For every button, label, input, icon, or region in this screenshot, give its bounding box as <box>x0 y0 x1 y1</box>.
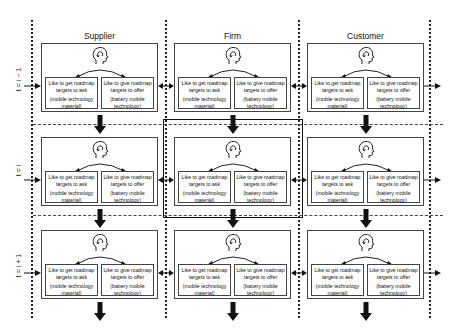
offer-line4: technology) <box>368 103 419 110</box>
ask-line2: targets to ask <box>312 87 363 94</box>
bidirectional-arrow-icon <box>158 82 174 90</box>
down-arrow-icon <box>360 115 372 135</box>
ask-targets-box: Like to get roadmap targets to ask (mobi… <box>311 171 364 203</box>
ask-targets-box: Like to get roadmap targets to ask (mobi… <box>311 77 364 109</box>
ask-line3: (mobile technology <box>179 283 230 290</box>
down-arrow-icon <box>360 302 372 322</box>
ask-line4: material) <box>46 103 97 110</box>
offer-line4: technology) <box>368 290 419 297</box>
ask-line2: targets to ask <box>312 181 363 188</box>
down-arrow-icon <box>94 115 106 135</box>
ask-line4: material) <box>46 197 97 204</box>
ask-targets-box: Like to get roadmap targets to ask (mobi… <box>178 171 231 203</box>
right-arrow-icon <box>24 269 42 277</box>
offer-line3: (battery mobile <box>102 283 153 290</box>
offer-targets-box: Like to give roadmap targets to offer (b… <box>367 171 420 203</box>
ask-line3: (mobile technology <box>312 96 363 103</box>
ask-line3: (mobile technology <box>46 283 97 290</box>
offer-targets-box: Like to give roadmap targets to offer (b… <box>101 264 154 296</box>
offer-line2: targets to offer <box>235 274 286 281</box>
offer-line1: Like to give roadmap <box>102 174 153 181</box>
ask-line3: (mobile technology <box>179 96 230 103</box>
offer-line2: targets to offer <box>368 87 419 94</box>
ask-line2: targets to ask <box>46 274 97 281</box>
down-arrow-icon <box>94 302 106 322</box>
ask-targets-box: Like to get roadmap targets to ask (mobi… <box>178 77 231 109</box>
offer-line3: (battery mobile <box>368 283 419 290</box>
head-with-circular-arrow-icon <box>224 46 242 66</box>
offer-line1: Like to give roadmap <box>102 80 153 87</box>
offer-line3: (battery mobile <box>102 190 153 197</box>
offer-line4: technology) <box>102 197 153 204</box>
offer-line4: technology) <box>102 290 153 297</box>
ask-line2: targets to ask <box>179 181 230 188</box>
ask-line4: material) <box>179 197 230 204</box>
offer-line2: targets to offer <box>368 181 419 188</box>
offer-line4: technology) <box>235 197 286 204</box>
ask-line3: (mobile technology <box>312 190 363 197</box>
offer-targets-box: Like to give roadmap targets to offer (b… <box>367 77 420 109</box>
ask-line1: Like to get roadmap <box>179 267 230 274</box>
offer-line3: (battery mobile <box>235 283 286 290</box>
head-with-circular-arrow-icon <box>91 233 109 253</box>
head-with-circular-arrow-icon <box>357 46 375 66</box>
offer-line2: targets to offer <box>235 87 286 94</box>
ask-line2: targets to ask <box>46 87 97 94</box>
head-with-circular-arrow-icon <box>91 46 109 66</box>
row-label-t: t = i <box>15 151 22 191</box>
offer-line2: targets to offer <box>368 274 419 281</box>
ask-line4: material) <box>179 103 230 110</box>
ask-line2: targets to ask <box>312 274 363 281</box>
down-arrow-icon <box>227 209 239 229</box>
offer-line3: (battery mobile <box>368 190 419 197</box>
ask-line1: Like to get roadmap <box>179 174 230 181</box>
down-arrow-icon <box>227 115 239 135</box>
offer-line1: Like to give roadmap <box>368 267 419 274</box>
ask-line4: material) <box>179 290 230 297</box>
offer-line1: Like to give roadmap <box>368 80 419 87</box>
offer-line2: targets to offer <box>102 181 153 188</box>
offer-line1: Like to give roadmap <box>235 174 286 181</box>
ask-targets-box: Like to get roadmap targets to ask (mobi… <box>311 264 364 296</box>
offer-line3: (battery mobile <box>235 190 286 197</box>
offer-targets-box: Like to give roadmap targets to offer (b… <box>234 171 287 203</box>
ask-line1: Like to get roadmap <box>312 80 363 87</box>
offer-line4: technology) <box>235 290 286 297</box>
ask-line2: targets to ask <box>179 87 230 94</box>
right-arrow-icon <box>424 269 442 277</box>
ask-line1: Like to get roadmap <box>312 267 363 274</box>
right-arrow-icon <box>24 176 42 184</box>
ask-line4: material) <box>312 103 363 110</box>
ask-line2: targets to ask <box>46 181 97 188</box>
right-arrow-icon <box>24 82 42 90</box>
down-arrow-icon <box>227 302 239 322</box>
ask-line1: Like to get roadmap <box>179 80 230 87</box>
ask-line4: material) <box>312 197 363 204</box>
offer-targets-box: Like to give roadmap targets to offer (b… <box>234 264 287 296</box>
column-title-customer: Customer <box>307 31 424 41</box>
offer-line2: targets to offer <box>102 274 153 281</box>
right-arrow-icon <box>424 176 442 184</box>
row-label-t-minus-1: t = i − 1 <box>15 60 22 100</box>
offer-targets-box: Like to give roadmap targets to offer (b… <box>101 171 154 203</box>
head-with-circular-arrow-icon <box>224 140 242 160</box>
right-arrow-icon <box>424 82 442 90</box>
head-with-circular-arrow-icon <box>357 233 375 253</box>
offer-line4: technology) <box>235 103 286 110</box>
down-arrow-icon <box>94 209 106 229</box>
ask-line3: (mobile technology <box>179 190 230 197</box>
ask-targets-box: Like to get roadmap targets to ask (mobi… <box>45 77 98 109</box>
offer-line4: technology) <box>368 197 419 204</box>
bidirectional-arrow-icon <box>291 82 307 90</box>
bidirectional-arrow-icon <box>291 176 307 184</box>
ask-line4: material) <box>312 290 363 297</box>
head-with-circular-arrow-icon <box>91 140 109 160</box>
ask-line1: Like to get roadmap <box>46 80 97 87</box>
ask-line1: Like to get roadmap <box>312 174 363 181</box>
column-title-firm: Firm <box>174 31 291 41</box>
column-title-supplier: Supplier <box>41 31 158 41</box>
offer-line3: (battery mobile <box>368 96 419 103</box>
ask-line1: Like to get roadmap <box>46 267 97 274</box>
offer-line4: technology) <box>102 103 153 110</box>
offer-line1: Like to give roadmap <box>368 174 419 181</box>
